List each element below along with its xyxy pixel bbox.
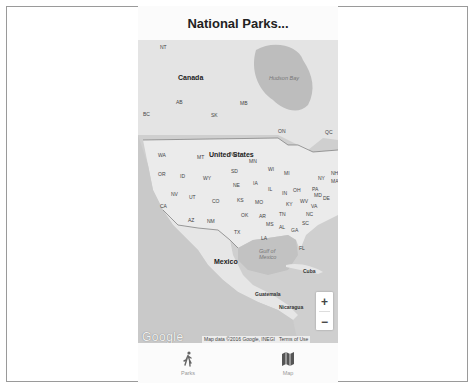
region-label: QC (325, 129, 333, 135)
google-logo: Google (142, 330, 184, 343)
region-label: OK (241, 212, 248, 218)
terms-of-use-link[interactable]: Terms of Use (279, 336, 308, 343)
region-label: MI (284, 170, 290, 176)
tab-bar: Parks Map (138, 343, 338, 383)
region-label: WV (300, 198, 308, 204)
zoom-out-button[interactable]: − (316, 312, 333, 331)
nav-header: National Parks... (138, 6, 338, 40)
region-label: SK (211, 112, 218, 118)
attribution-text: Map data ©2016 Google, INEGI (204, 336, 275, 343)
region-label: OR (158, 171, 166, 177)
water-label-gulf-mexico: Mexico (259, 254, 276, 260)
region-label: NY (318, 175, 325, 181)
place-label-nicaragua: Nicaragua (279, 304, 303, 310)
region-label: BC (143, 111, 150, 117)
map-icon (281, 351, 295, 367)
page-title: National Parks... (187, 16, 288, 31)
place-label-guatemala: Guatemala (255, 291, 281, 297)
country-label-mexico: Mexico (214, 258, 238, 265)
region-label: ND (230, 151, 237, 157)
region-label: GA (291, 227, 298, 233)
region-label: ID (180, 173, 185, 179)
region-label: AL (279, 224, 285, 230)
region-label: SD (231, 168, 238, 174)
region-label: OH (293, 187, 301, 193)
region-label: TX (234, 229, 240, 235)
walking-person-icon (181, 351, 195, 367)
region-label: NE (233, 182, 240, 188)
region-label: MS (266, 221, 274, 227)
region-label: NV (171, 191, 178, 197)
region-label: IN (282, 190, 287, 196)
app-screen: National Parks... Canada United St (138, 6, 338, 383)
region-label: IA (253, 180, 258, 186)
region-label: TN (279, 211, 286, 217)
tab-parks[interactable]: Parks (138, 343, 238, 383)
country-label-canada: Canada (178, 74, 203, 81)
region-label: AB (176, 99, 183, 105)
region-label: NM (207, 218, 215, 224)
region-label: NH (331, 170, 338, 176)
region-label: MN (249, 158, 257, 164)
region-label: KY (286, 201, 293, 207)
region-label: IL (268, 186, 272, 192)
region-label: WA (158, 152, 166, 158)
region-label: MD (314, 192, 322, 198)
region-label: MT (197, 154, 204, 160)
region-label: CA (160, 203, 167, 209)
region-label: VA (311, 203, 317, 209)
zoom-in-button[interactable]: + (316, 292, 333, 311)
zoom-control: + − (316, 292, 333, 330)
region-label: WI (268, 166, 274, 172)
region-label: MO (255, 199, 263, 205)
region-label: UT (189, 194, 196, 200)
map-terrain (138, 40, 338, 343)
tab-label-map: Map (283, 370, 294, 376)
region-label: NT (160, 44, 167, 50)
map-attribution: Map data ©2016 Google, INEGI Terms of Us… (202, 336, 310, 343)
region-label: WY (203, 175, 211, 181)
water-label-hudson-bay: Hudson Bay (269, 75, 299, 81)
region-label: NC (306, 211, 313, 217)
region-label: FL (299, 245, 305, 251)
region-label: SC (302, 220, 309, 226)
region-label: CO (212, 198, 220, 204)
tab-label-parks: Parks (181, 370, 195, 376)
region-label: ON (278, 128, 286, 134)
region-label: KS (237, 197, 244, 203)
region-label: DE (323, 195, 330, 201)
tab-map[interactable]: Map (238, 343, 338, 383)
region-label: LA (261, 235, 267, 241)
map-view[interactable]: Canada United States Mexico Hudson Bay G… (138, 40, 338, 343)
region-label: MA (331, 178, 338, 184)
region-label: AZ (188, 217, 194, 223)
place-label-cuba: Cuba (303, 268, 316, 274)
region-label: MB (240, 100, 248, 106)
region-label: AR (259, 213, 266, 219)
